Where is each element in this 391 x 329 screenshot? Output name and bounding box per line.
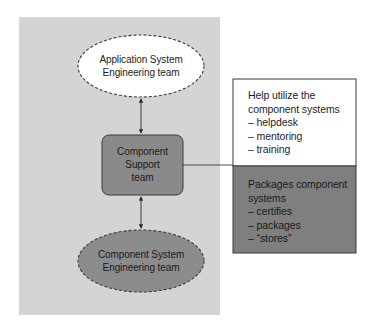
packages-box-line-2: systems: [248, 192, 347, 206]
help-box-line-5: – training: [248, 143, 340, 157]
packages-box-text: Packages component systems – certifies –…: [248, 178, 347, 246]
component-team-line-1: Component System: [80, 248, 202, 261]
help-box-line-3: – helpdesk: [248, 116, 340, 130]
diagram-canvas: Application System Engineering team Comp…: [0, 0, 391, 329]
packages-box-line-4: – packages: [248, 219, 347, 233]
support-team-line-1: Component: [102, 145, 183, 158]
component-team-line-2: Engineering team: [80, 261, 202, 274]
help-box-line-2: component systems: [248, 103, 340, 117]
support-team-label: Component Support team: [102, 145, 183, 184]
help-box-line-4: – mentoring: [248, 130, 340, 144]
app-team-label: Application System Engineering team: [80, 53, 202, 79]
packages-box-line-1: Packages component: [248, 178, 347, 192]
component-team-label: Component System Engineering team: [80, 248, 202, 274]
support-team-line-3: team: [102, 171, 183, 184]
app-team-line-2: Engineering team: [80, 66, 202, 79]
app-team-line-1: Application System: [80, 53, 202, 66]
support-team-line-2: Support: [102, 158, 183, 171]
packages-box-line-3: – certifies: [248, 205, 347, 219]
help-box-text: Help utilize the component systems – hel…: [248, 89, 340, 157]
diagram-svg: [0, 0, 391, 329]
help-box-line-1: Help utilize the: [248, 89, 340, 103]
packages-box-line-5: – “stores”: [248, 232, 347, 246]
